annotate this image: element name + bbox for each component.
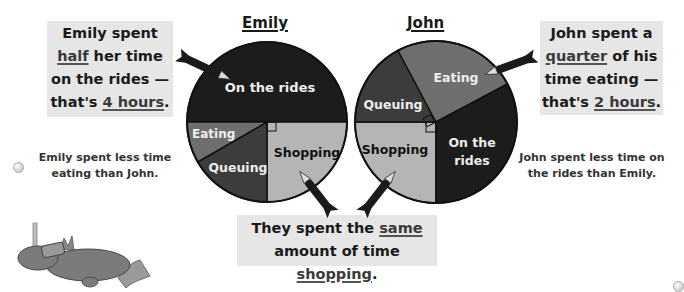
john-label-queuing: Queuing — [363, 97, 422, 112]
emily-label-queuing: Queuing — [208, 160, 267, 175]
john-pie-chart — [355, 41, 517, 203]
john-slice-shopping — [355, 122, 436, 203]
decorative-dot — [13, 162, 24, 173]
emily-label-eating: Eating — [192, 127, 235, 141]
john-label-shopping: Shopping — [362, 142, 429, 157]
emily-label-shopping: Shopping — [274, 145, 341, 160]
john-label-eating: Eating — [433, 70, 478, 85]
emily-label-rides: On the rides — [225, 80, 316, 95]
emily-slice-shopping — [267, 122, 347, 202]
hippo-snorkel-illustration — [18, 223, 150, 288]
john-label-rides-line1: On the — [448, 135, 495, 150]
decorative-dot — [673, 281, 684, 292]
john-label-rides-line2: rides — [454, 153, 489, 168]
